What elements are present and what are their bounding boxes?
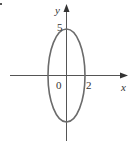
- y-axis: [64, 4, 70, 141]
- y-intercept-label: 5: [57, 21, 63, 33]
- stray-mark: [0, 3, 2, 5]
- y-axis-label: y: [54, 4, 60, 16]
- x-axis-arrow-icon: [120, 73, 128, 79]
- ellipse-diagram: y 5 0 2 x: [0, 0, 133, 149]
- x-axis: [10, 73, 128, 79]
- y-axis-arrow-icon: [64, 4, 70, 12]
- x-intercept-label: 2: [86, 79, 92, 91]
- origin-label: 0: [56, 79, 62, 91]
- x-axis-label: x: [120, 81, 126, 93]
